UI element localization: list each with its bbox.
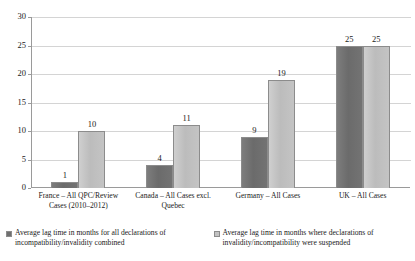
y-tick-mark bbox=[28, 188, 31, 189]
bar-value-label: 1 bbox=[63, 171, 67, 180]
legend-label: Average lag time in months for all decla… bbox=[15, 228, 202, 248]
bar-groups: 1 10 4 11 9 bbox=[31, 17, 410, 188]
x-axis-categories: France – All QPC/Review Cases (2010–2012… bbox=[31, 191, 410, 210]
y-tick-label: 10 bbox=[0, 126, 26, 135]
bar-pair: 25 25 bbox=[336, 17, 390, 188]
bar-value-label: 11 bbox=[183, 114, 191, 123]
y-tick-label: 30 bbox=[0, 12, 26, 21]
category-label-uk: UK – All Cases bbox=[315, 191, 410, 210]
bar-group-france: 1 10 bbox=[31, 17, 126, 188]
bar-value-label: 25 bbox=[372, 35, 381, 44]
bar-chart: 30 25 20 15 10 5 0 1 10 bbox=[0, 0, 415, 261]
y-tick-label: 20 bbox=[0, 69, 26, 78]
category-label-germany: Germany – All Cases bbox=[221, 191, 316, 210]
bar-pair: 9 19 bbox=[241, 17, 295, 188]
bar-value-label: 10 bbox=[88, 120, 97, 129]
legend-swatch-icon bbox=[6, 231, 12, 237]
bar-value-label: 4 bbox=[158, 154, 162, 163]
bar-group-canada: 4 11 bbox=[126, 17, 221, 188]
bar-group-uk: 25 25 bbox=[315, 17, 410, 188]
y-tick-label: 5 bbox=[0, 155, 26, 164]
legend-item-combined[interactable]: Average lag time in months for all decla… bbox=[0, 228, 208, 248]
legend-item-suspended[interactable]: Average lag time in months where declara… bbox=[208, 228, 415, 248]
bar-pair: 1 10 bbox=[51, 17, 105, 188]
bar-france-combined[interactable]: 1 bbox=[51, 182, 78, 188]
y-tick-label: 0 bbox=[0, 183, 26, 192]
bar-uk-suspended[interactable]: 25 bbox=[363, 46, 390, 189]
bar-germany-suspended[interactable]: 19 bbox=[268, 80, 295, 188]
y-tick-label: 25 bbox=[0, 41, 26, 50]
bar-pair: 4 11 bbox=[146, 17, 200, 188]
bar-germany-combined[interactable]: 9 bbox=[241, 137, 268, 188]
y-axis: 30 25 20 15 10 5 0 bbox=[0, 17, 31, 188]
bar-value-label: 19 bbox=[277, 69, 286, 78]
bar-france-suspended[interactable]: 10 bbox=[78, 131, 105, 188]
bar-group-germany: 9 19 bbox=[221, 17, 316, 188]
category-label-canada: Canada – All Cases excl. Quebec bbox=[126, 191, 221, 210]
legend-label: Average lag time in months where declara… bbox=[223, 228, 410, 248]
bar-canada-combined[interactable]: 4 bbox=[146, 165, 173, 188]
bar-uk-combined[interactable]: 25 bbox=[336, 46, 363, 189]
bar-value-label: 9 bbox=[252, 126, 256, 135]
chart-legend: Average lag time in months for all decla… bbox=[0, 228, 415, 248]
category-label-france: France – All QPC/Review Cases (2010–2012… bbox=[31, 191, 126, 210]
bar-canada-suspended[interactable]: 11 bbox=[173, 125, 200, 188]
bar-value-label: 25 bbox=[345, 35, 354, 44]
y-tick-label: 15 bbox=[0, 98, 26, 107]
legend-swatch-icon bbox=[214, 231, 220, 237]
